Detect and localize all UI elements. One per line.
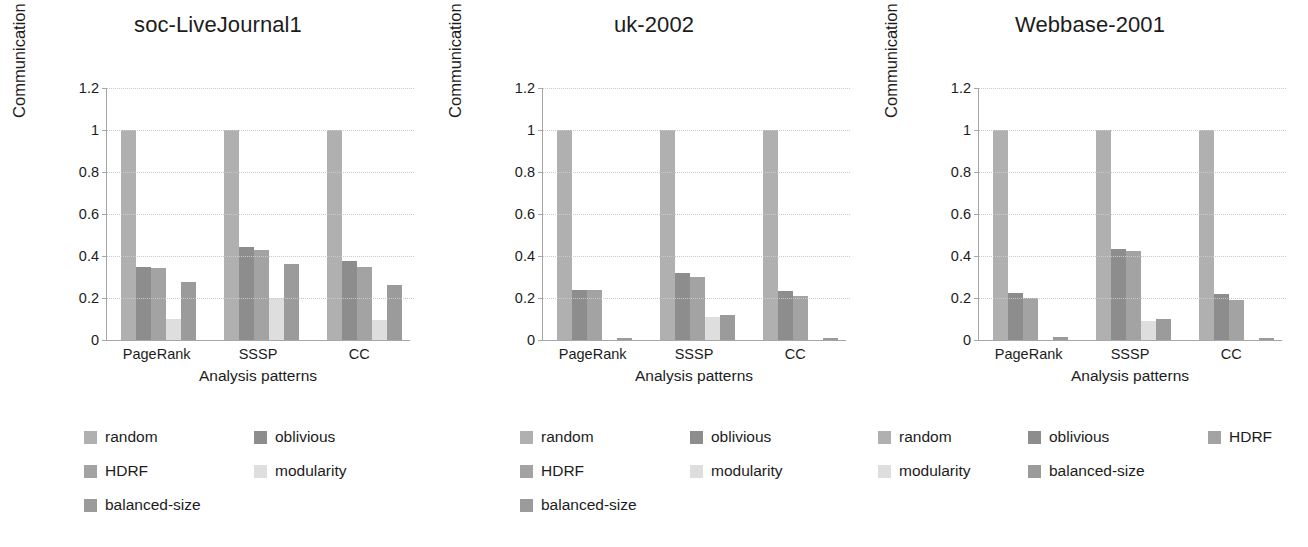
chart-area: Communication cost (random=1) 00.20.40.6… <box>528 78 846 363</box>
bar-oblivious <box>1111 249 1126 340</box>
legend: randomobliviousHDRFmodularitybalanced-si… <box>520 428 872 514</box>
legend-label: modularity <box>275 462 347 480</box>
bar-modularity <box>166 319 181 340</box>
y-axis-tick-mark <box>974 172 979 173</box>
plot-area: 00.20.40.60.811.2 <box>978 88 1282 341</box>
chart-panel-webbase-2001: Webbase-2001 Communication cost (random=… <box>872 0 1308 547</box>
legend-swatch-modularity <box>878 465 891 478</box>
x-axis-tick-label: CC <box>309 341 410 363</box>
y-axis-tick-mark <box>102 88 107 89</box>
legend-swatch-balanced-size <box>84 499 97 512</box>
gridline <box>543 88 850 89</box>
chart-panel-soc-livejournal1: soc-LiveJournal1 Communication cost (ran… <box>0 0 436 547</box>
legend-item-HDRF: HDRF <box>520 462 690 480</box>
y-axis-tick-label: 0.8 <box>79 164 99 180</box>
legend-item-modularity: modularity <box>690 462 870 480</box>
gridline <box>107 88 414 89</box>
legend-label: HDRF <box>541 462 584 480</box>
bar-oblivious <box>342 261 357 340</box>
y-axis-tick-mark <box>974 130 979 131</box>
gridline <box>979 214 1286 215</box>
legend-item-modularity: modularity <box>254 462 434 480</box>
bar-HDRF <box>1126 251 1141 340</box>
legend-item-balanced-size: balanced-size <box>84 496 254 514</box>
x-axis-label: Analysis patterns <box>106 367 410 385</box>
bar-random <box>1096 130 1111 340</box>
y-axis-tick-label: 0.8 <box>951 164 971 180</box>
bar-oblivious <box>675 273 690 340</box>
x-axis-tick-label: SSSP <box>1079 341 1180 363</box>
y-axis-tick-label: 1.2 <box>951 80 971 96</box>
legend-item-random: random <box>520 428 690 446</box>
legend-swatch-random <box>84 431 97 444</box>
legend-label: oblivious <box>1049 428 1109 446</box>
bar-balanced-size <box>617 338 632 340</box>
legend-item-HDRF: HDRF <box>1208 428 1308 446</box>
y-axis-tick-mark <box>102 298 107 299</box>
bar-balanced-size <box>823 338 838 340</box>
legend-label: modularity <box>711 462 783 480</box>
legend-swatch-random <box>520 431 533 444</box>
y-axis-tick-label: 0.2 <box>951 290 971 306</box>
plot-area: 00.20.40.60.811.2 <box>106 88 410 341</box>
y-axis-tick-label: 0.6 <box>951 206 971 222</box>
bar-balanced-size <box>720 315 735 340</box>
y-axis-tick-mark <box>102 214 107 215</box>
x-axis-tick-label: PageRank <box>106 341 207 363</box>
chart-area: Communication cost (random=1) 00.20.40.6… <box>964 78 1282 363</box>
bar-balanced-size <box>1156 319 1171 340</box>
y-axis-tick-label: 1 <box>527 122 535 138</box>
x-axis-tick-label: PageRank <box>542 341 643 363</box>
legend-item-random: random <box>84 428 254 446</box>
chart-panel-uk-2002: uk-2002 Communication cost (random=1) 00… <box>436 0 872 547</box>
chart-title: Webbase-2001 <box>872 12 1308 38</box>
legend-label: HDRF <box>1229 428 1272 446</box>
gridline <box>107 214 414 215</box>
y-axis-tick-label: 0 <box>91 332 99 348</box>
gridline <box>543 172 850 173</box>
x-axis-ticks: PageRankSSSPCC <box>106 341 410 363</box>
y-axis-tick-label: 1 <box>963 122 971 138</box>
x-axis-tick-label: PageRank <box>978 341 1079 363</box>
legend-item-balanced-size: balanced-size <box>1028 462 1208 480</box>
bar-balanced-size <box>1259 338 1274 340</box>
legend-swatch-HDRF <box>1208 431 1221 444</box>
legend-swatch-HDRF <box>84 465 97 478</box>
y-axis-tick-label: 0.2 <box>79 290 99 306</box>
legend-label: balanced-size <box>541 496 637 514</box>
gridline <box>107 172 414 173</box>
legend-label: balanced-size <box>1049 462 1145 480</box>
legend-item-balanced-size: balanced-size <box>520 496 690 514</box>
legend-item-oblivious: oblivious <box>1028 428 1208 446</box>
y-axis-tick-mark <box>102 256 107 257</box>
y-axis-tick-mark <box>538 88 543 89</box>
bar-random <box>1199 130 1214 340</box>
bar-HDRF <box>1023 298 1038 340</box>
bar-random <box>224 130 239 340</box>
y-axis-tick-label: 0.6 <box>515 206 535 222</box>
bar-HDRF <box>793 296 808 340</box>
legend-item-random: random <box>878 428 1028 446</box>
y-axis-tick-label: 0.4 <box>79 248 99 264</box>
gridline <box>979 298 1286 299</box>
legend-swatch-random <box>878 431 891 444</box>
bar-HDRF <box>151 268 166 340</box>
bar-modularity <box>705 317 720 340</box>
legend-label: HDRF <box>105 462 148 480</box>
legend-item-modularity: modularity <box>878 462 1028 480</box>
y-axis-tick-label: 1.2 <box>515 80 535 96</box>
bar-oblivious <box>1214 294 1229 340</box>
gridline <box>979 172 1286 173</box>
y-axis-tick-mark <box>974 298 979 299</box>
chart-title: soc-LiveJournal1 <box>0 12 436 38</box>
gridline <box>107 130 414 131</box>
y-axis-tick-mark <box>974 256 979 257</box>
x-axis-label: Analysis patterns <box>978 367 1282 385</box>
gridline <box>979 130 1286 131</box>
y-axis-tick-label: 0 <box>527 332 535 348</box>
x-axis-tick-label: CC <box>745 341 846 363</box>
y-axis-label: Communication cost (random=1) <box>882 0 901 118</box>
legend-swatch-modularity <box>254 465 267 478</box>
legend-swatch-balanced-size <box>1028 465 1041 478</box>
gridline <box>543 298 850 299</box>
